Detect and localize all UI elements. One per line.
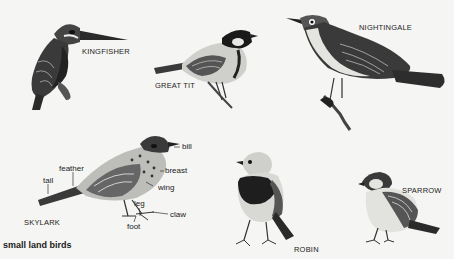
part-breast-label: breast: [165, 166, 187, 175]
part-claw-label: claw: [170, 210, 186, 219]
robin-illustration: [232, 150, 307, 255]
robin-label: ROBIN: [294, 245, 319, 254]
skylark-label: SKYLARK: [24, 218, 60, 227]
part-wing-label: wing: [158, 183, 174, 192]
plate-caption: small land birds: [3, 240, 72, 250]
part-leg-label: leg: [134, 199, 145, 208]
sparrow-label: SPARROW: [402, 186, 442, 195]
part-foot-label: foot: [127, 222, 140, 231]
bird-illustration-plate: KINGFISHER GREAT TIT: [0, 0, 454, 259]
sparrow-illustration: [356, 170, 446, 250]
part-tail-label: tail: [43, 176, 53, 185]
part-feather-label: feather: [59, 164, 84, 173]
part-bill-label: bill: [182, 142, 192, 151]
